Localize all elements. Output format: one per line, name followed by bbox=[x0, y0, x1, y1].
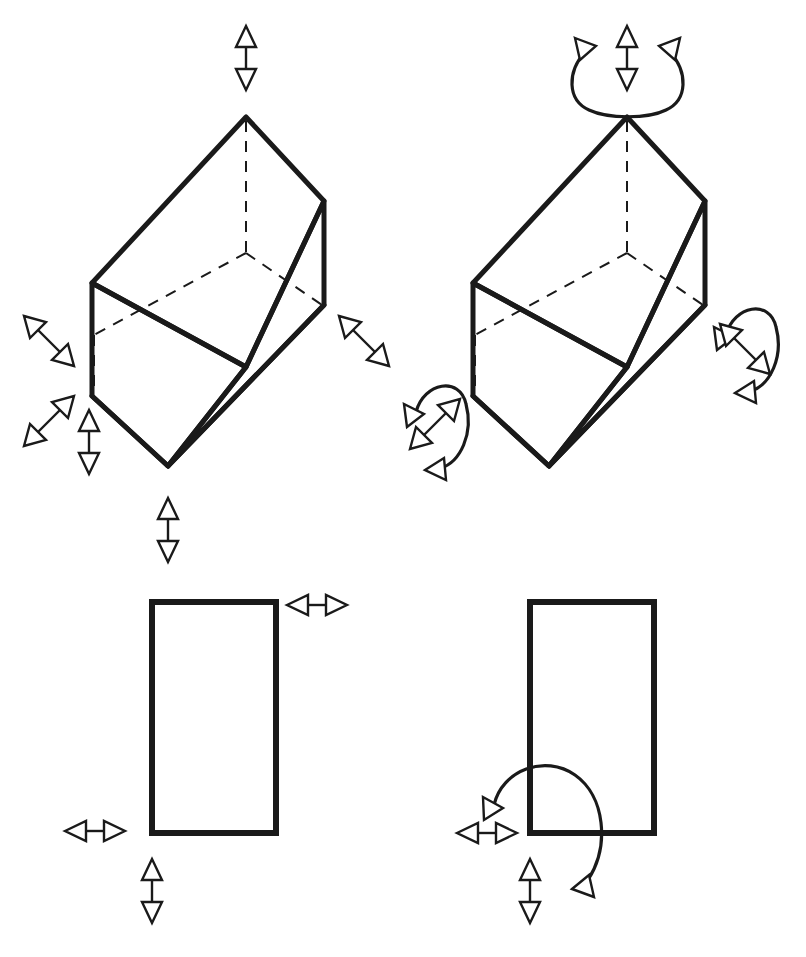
translation-arrow-up-top bbox=[236, 26, 256, 90]
box-top-face bbox=[473, 117, 705, 367]
box-hidden-edge-back-right bbox=[246, 253, 322, 305]
translation-arrow-vertical-top-center bbox=[617, 26, 637, 90]
figure-root bbox=[0, 0, 806, 957]
panel-top-right bbox=[404, 26, 778, 480]
box-right-face bbox=[549, 201, 705, 466]
box-3d-top-right bbox=[473, 117, 705, 466]
panel-bottom-right bbox=[457, 602, 654, 923]
translation-arrow-horizontal-left bbox=[65, 821, 125, 841]
box-right-face bbox=[168, 201, 324, 466]
translation-arrow-vertical-bottom bbox=[520, 859, 540, 923]
panel-bottom-left bbox=[65, 595, 347, 923]
translation-arrow-diagonal-left-upper bbox=[24, 316, 74, 366]
box-left-face bbox=[473, 283, 627, 466]
translation-arrow-diagonal-right bbox=[339, 316, 389, 366]
translation-arrow-vertical-left-lower bbox=[79, 410, 99, 474]
rectangle-2d-bottom-right bbox=[530, 602, 654, 833]
box-silhouette bbox=[473, 305, 705, 466]
translation-arrow-diagonal-right bbox=[720, 324, 770, 374]
translation-arrow-horizontal-left bbox=[457, 823, 517, 843]
translation-arrow-diagonal-left-lower bbox=[24, 396, 74, 446]
box-top-face bbox=[92, 117, 324, 367]
rotation-arc-right-face bbox=[714, 309, 778, 403]
translation-arrow-horizontal-top-right bbox=[287, 595, 347, 615]
box-left-face bbox=[92, 283, 246, 466]
box-3d-top-left bbox=[92, 117, 324, 466]
rectangle-2d-bottom-left bbox=[152, 602, 276, 833]
box-silhouette bbox=[92, 305, 324, 466]
panel-top-left bbox=[24, 26, 389, 562]
translation-arrow-vertical-bottom bbox=[142, 859, 162, 923]
translation-arrow-vertical-bottom bbox=[158, 498, 178, 562]
figure-canvas bbox=[0, 0, 806, 957]
box-hidden-edge-back-right bbox=[627, 253, 703, 305]
